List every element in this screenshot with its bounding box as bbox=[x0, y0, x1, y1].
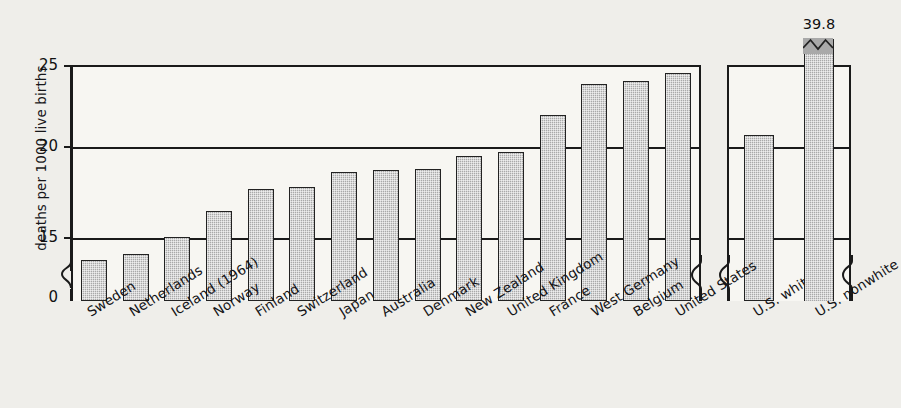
bar-value-label: 39.8 bbox=[803, 16, 835, 32]
bar-clip-break-icon bbox=[803, 38, 833, 54]
bar-u-s-nonwhite: 39.8 bbox=[804, 39, 834, 301]
x-label-finland: Finland bbox=[252, 280, 302, 320]
